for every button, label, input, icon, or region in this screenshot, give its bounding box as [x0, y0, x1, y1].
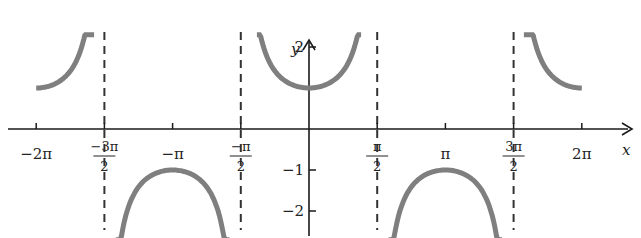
x-tick-label-numerator: −3π — [91, 139, 119, 154]
y-tick-label: −1 — [282, 161, 304, 179]
sec-graph: xy −2π−3π2−π−π2π2π3π22π2−1−2 — [0, 0, 641, 238]
x-tick-label-denominator: 2 — [509, 159, 517, 174]
curve-branch — [389, 170, 503, 238]
plot-area: xy −2π−3π2−π−π2π2π3π22π2−1−2 — [0, 0, 641, 238]
x-tick-label-denominator: 2 — [373, 159, 381, 174]
x-tick-label: 2π — [572, 145, 592, 163]
axes: xy — [8, 40, 632, 236]
x-tick-label: −2π — [20, 145, 52, 163]
x-tick-label-numerator: −π — [231, 139, 251, 154]
y-tick-label: −2 — [282, 202, 304, 220]
curve-branch — [116, 170, 230, 238]
y-tick-label: 2 — [294, 38, 304, 56]
x-tick-label-denominator: 2 — [100, 159, 108, 174]
x-tick-label-numerator: 3π — [505, 139, 522, 154]
x-tick-label: −π — [161, 145, 184, 163]
curve-branch — [36, 35, 94, 88]
x-tick-label-numerator: π — [373, 139, 382, 154]
curve-branch — [524, 35, 582, 88]
x-tick-label-denominator: 2 — [237, 159, 245, 174]
x-tick-label: π — [440, 145, 450, 163]
x-axis-label: x — [622, 141, 631, 159]
